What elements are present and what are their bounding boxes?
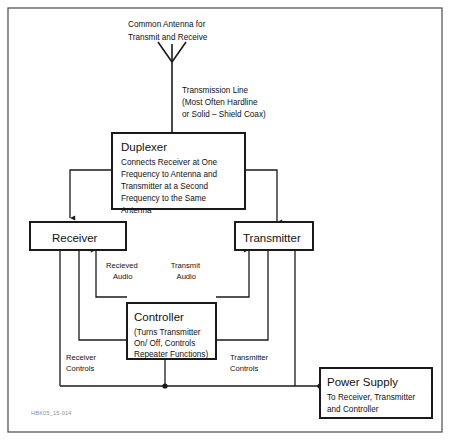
controller-desc-line2: On/ Off, Controls xyxy=(134,339,195,348)
duplexer-desc-line1: Connects Receiver at One xyxy=(121,158,217,167)
figure-caption-id: HBK05_15-014 xyxy=(31,410,72,416)
duplexer-desc-line2: Frequency to Antenna and xyxy=(121,170,217,179)
duplexer-to-receiver-wire xyxy=(70,170,112,218)
power-supply-desc-line1: To Receiver, Transmitter xyxy=(327,393,416,402)
antenna-label-line2: Transmit and Receive xyxy=(128,33,208,42)
feedline-label-line1: Transmission Line xyxy=(182,86,249,95)
controller-title: Controller xyxy=(134,311,184,323)
transmitter-controls-label-line2: Controls xyxy=(230,364,258,373)
controller-desc-line3: Repeater Functions) xyxy=(134,350,208,359)
receiver-controls-label-line2: Controls xyxy=(66,364,94,373)
power-distribution-bus xyxy=(60,359,323,389)
transmit-audio-label-line1: Transmit xyxy=(171,261,201,270)
duplexer-title: Duplexer xyxy=(121,141,167,153)
receiver-title: Receiver xyxy=(52,232,98,244)
transmitter-controls-label-line1: Transmitter xyxy=(230,353,269,362)
antenna-label-line1: Common Antenna for xyxy=(128,20,206,29)
repeater-block-diagram: Common Antenna for Transmit and Receive … xyxy=(0,0,450,440)
feedline-label-line3: or Solid – Shield Coax) xyxy=(182,110,266,119)
duplexer-desc-line3: Transmitter at a Second xyxy=(121,182,209,191)
controller-desc-line1: (Turns Transmitter xyxy=(134,328,201,337)
transmit-audio-label-line2: Audio xyxy=(177,272,196,281)
power-supply-desc-line2: and Controller xyxy=(327,405,379,414)
duplexer-desc-line4: Frequency to the Same xyxy=(121,194,207,203)
transmitter-title: Transmitter xyxy=(243,232,301,244)
received-audio-label-line1: Recieved xyxy=(106,261,138,270)
transmitter-to-duplexer-wire xyxy=(245,170,277,222)
junction-dot-controller xyxy=(162,383,167,388)
duplexer-desc-line5: Antenna xyxy=(121,206,152,215)
received-audio-label-line2: Audio xyxy=(113,272,132,281)
receiver-controls-label-line1: Receiver xyxy=(66,353,96,362)
feedline-label-line2: (Most Often Hardline xyxy=(182,98,258,107)
diagram-canvas: Common Antenna for Transmit and Receive … xyxy=(0,0,450,440)
power-supply-title: Power Supply xyxy=(327,376,398,388)
